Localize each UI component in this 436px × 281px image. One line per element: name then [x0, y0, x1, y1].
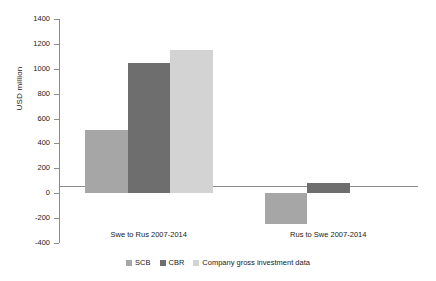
bar-cbr-1: [307, 183, 350, 194]
chart-legend: SCBCBRCompany gross investment data: [0, 258, 436, 267]
legend-item[interactable]: CBR: [160, 258, 185, 267]
legend-item[interactable]: Company gross investment data: [193, 258, 310, 267]
legend-label: SCB: [135, 258, 150, 267]
legend-swatch-icon: [193, 260, 199, 266]
bar-company-gross-investment-data-0: [170, 50, 213, 193]
y-axis-tick-label: -400: [4, 239, 50, 247]
y-axis-tick-label: 1400: [4, 15, 50, 23]
legend-label: Company gross investment data: [202, 258, 310, 267]
bar-scb-1: [265, 193, 308, 224]
x-axis-category-label: Swe to Rus 2007-2014: [79, 230, 219, 239]
y-axis-tick-label: 1200: [4, 40, 50, 48]
legend-swatch-icon: [160, 260, 166, 266]
legend-label: CBR: [169, 258, 185, 267]
bar-cbr-0: [128, 63, 171, 194]
y-axis-tick-label: -200: [4, 214, 50, 222]
y-axis-tick-label: 600: [4, 115, 50, 123]
plot-area: [59, 19, 418, 243]
y-axis-tick-label: 400: [4, 139, 50, 147]
y-axis-tick-label: 1000: [4, 65, 50, 73]
y-axis-tick: [54, 243, 59, 244]
y-axis-tick-label: 0: [4, 189, 50, 197]
y-axis-tick-label: 200: [4, 164, 50, 172]
bar-scb-0: [85, 130, 128, 193]
x-axis-category-label: Rus to Swe 2007-2014: [258, 230, 398, 239]
legend-swatch-icon: [126, 260, 132, 266]
y-axis-tick-label: 800: [4, 90, 50, 98]
legend-item[interactable]: SCB: [126, 258, 150, 267]
bar-chart: USD million 1400120010008006004002000-20…: [0, 0, 436, 281]
